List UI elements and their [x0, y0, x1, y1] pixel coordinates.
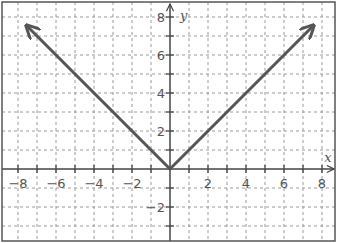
- coordinate-plane: −8−6−4−224688642−2xy: [0, 0, 337, 243]
- y-axis-label: y: [179, 8, 188, 23]
- x-tick-label: 8: [318, 176, 326, 191]
- y-tick-label: −2: [146, 200, 165, 215]
- x-tick-label: −2: [122, 176, 141, 191]
- y-tick-label: 4: [157, 86, 165, 101]
- y-tick-label: 6: [157, 48, 165, 63]
- x-tick-label: −4: [84, 176, 103, 191]
- x-axis-label: x: [324, 150, 332, 165]
- y-tick-label: 2: [157, 124, 165, 139]
- grid-lines: [2, 2, 335, 241]
- x-tick-label: 4: [242, 176, 250, 191]
- plot-frame: [2, 2, 335, 241]
- x-tick-label: 6: [280, 176, 288, 191]
- x-tick-label: −6: [46, 176, 65, 191]
- y-tick-label: 8: [157, 10, 165, 25]
- x-tick-label: −8: [8, 176, 27, 191]
- x-tick-label: 2: [204, 176, 212, 191]
